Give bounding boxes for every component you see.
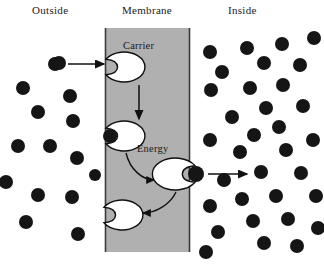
label-membrane: Membrane <box>122 4 172 16</box>
solute-particle-outside-9 <box>65 190 79 204</box>
label-outside: Outside <box>32 4 68 16</box>
solute-particle-inside-31 <box>199 245 213 259</box>
label-energy: Energy <box>137 143 169 154</box>
solute-particle-inside-24 <box>269 189 283 203</box>
solute-particle-outside-6 <box>43 139 57 153</box>
solute-particle-inside-20 <box>294 166 308 180</box>
diagram-canvas: CarrierEnergy Outside Membrane Inside <box>0 0 324 267</box>
solute-particle-inside-26 <box>246 214 260 228</box>
solute-particle-outside-13 <box>89 169 101 181</box>
solute-particle-inside-29 <box>257 236 271 250</box>
solute-particle-inside-13 <box>272 120 286 134</box>
solute-particle-inside-3 <box>203 45 217 59</box>
active-transport-diagram: CarrierEnergy Outside Membrane Inside <box>0 0 324 267</box>
solute-particle-inside-9 <box>204 83 218 97</box>
label-carrier: Carrier <box>123 40 154 51</box>
solute-particle-inside-1 <box>275 37 289 51</box>
solute-particle-inside-19 <box>254 165 268 179</box>
solute-particle-inside-28 <box>211 225 225 239</box>
bound-middle-left <box>103 129 117 143</box>
released-particle <box>188 166 204 182</box>
solute-particle-inside-10 <box>259 101 273 115</box>
solute-particle-inside-5 <box>293 58 307 72</box>
solute-particle-inside-4 <box>257 56 271 70</box>
solute-particle-inside-8 <box>276 78 290 92</box>
solute-particle-inside-14 <box>247 128 261 142</box>
free-particle-group <box>48 57 62 71</box>
solute-particle-inside-30 <box>290 239 304 253</box>
solute-particle-outside-5 <box>11 139 25 153</box>
solute-particle-outside-11 <box>71 227 85 241</box>
solute-particle-outside-8 <box>31 188 45 202</box>
solute-particle-inside-23 <box>235 192 249 206</box>
solute-particle-inside-15 <box>203 133 217 147</box>
solute-particle-inside-17 <box>279 143 293 157</box>
solute-particle-inside-25 <box>203 199 217 213</box>
solute-particle-outside-1 <box>16 81 30 95</box>
solute-particle-inside-0 <box>240 41 254 55</box>
solute-particle-inside-2 <box>307 31 321 45</box>
solute-particle-outside-4 <box>66 114 80 128</box>
solute-particle-inside-6 <box>215 65 229 79</box>
solute-particle-inside-7 <box>243 81 257 95</box>
label-inside: Inside <box>228 4 257 16</box>
solute-particle-inside-11 <box>296 99 310 113</box>
solute-particle-outside-10 <box>19 215 33 229</box>
solute-particle-outside-7 <box>70 151 84 165</box>
solute-particle-inside-12 <box>225 110 239 124</box>
solute-particle-inside-21 <box>217 173 231 187</box>
solute-particle-inside-18 <box>306 133 320 147</box>
solute-particle-inside-27 <box>281 212 295 226</box>
entering-particle <box>48 57 62 71</box>
solute-particle-outside-3 <box>31 105 45 119</box>
solute-particle-outside-2 <box>63 89 77 103</box>
solute-particle-inside-16 <box>233 145 247 159</box>
solute-particle-inside-22 <box>309 189 323 203</box>
